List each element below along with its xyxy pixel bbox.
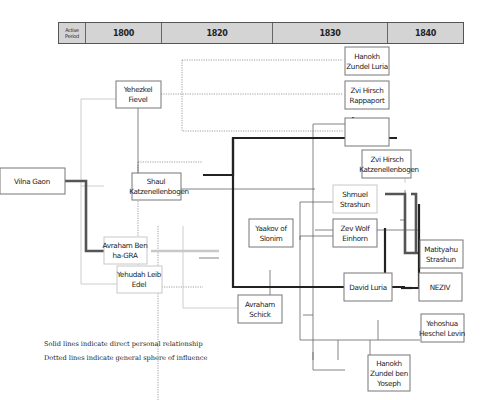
node-zvi-hirsch-rappaport[interactable]: Zvi Hirsch Rappaport xyxy=(345,81,389,109)
svg-text:Edel: Edel xyxy=(132,280,147,289)
node-hanokh-zundel-luria[interactable]: Hanokh Zundel Luria xyxy=(345,47,389,75)
node-neziv[interactable]: NEZIV xyxy=(419,273,462,301)
svg-text:Yehudah Leib: Yehudah Leib xyxy=(116,270,162,279)
svg-text:Yoseph: Yoseph xyxy=(376,379,400,388)
svg-text:Heschel Levin: Heschel Levin xyxy=(419,329,465,338)
node-shmuel-strashun[interactable]: Shmuel Strashun xyxy=(333,185,377,213)
svg-text:Zundel ben: Zundel ben xyxy=(370,369,408,378)
svg-text:Hanokh: Hanokh xyxy=(354,52,380,61)
svg-text:Katzenellenbogen: Katzenellenbogen xyxy=(129,187,189,196)
svg-text:Avraham: Avraham xyxy=(245,300,275,309)
node-shaul-katzenellenbogen[interactable]: Shaul Katzenellenbogen xyxy=(129,173,189,200)
svg-text:Shmuel: Shmuel xyxy=(342,190,368,199)
node-matityahu-strashun[interactable]: Matityahu Strashun xyxy=(420,240,463,268)
node-yehezkel-fievel[interactable]: Yehezkel Fievel xyxy=(116,81,161,108)
svg-text:Slonim: Slonim xyxy=(260,234,283,243)
node-yitzhak-elyahu-landau[interactable] xyxy=(345,118,389,146)
svg-text:Rappaport: Rappaport xyxy=(350,96,385,105)
svg-text:Matityahu: Matityahu xyxy=(424,245,457,254)
svg-text:Yehezkel: Yehezkel xyxy=(123,85,153,94)
node-hanokh-zundel-ben-yoseph[interactable]: Hanokh Zundel ben Yoseph xyxy=(368,355,410,391)
svg-text:Zvi Hirsch: Zvi Hirsch xyxy=(370,155,403,164)
node-avraham-ben-hagra[interactable]: Avraham Ben ha-GRA xyxy=(103,237,148,264)
svg-text:David Luria: David Luria xyxy=(349,283,387,292)
legend-solid: Solid lines indicate direct personal rel… xyxy=(44,340,207,354)
node-zvi-hirsch-katzenellenbogen[interactable]: Zvi Hirsch Katzenellenbogen xyxy=(359,150,419,178)
svg-text:NEZIV: NEZIV xyxy=(430,283,451,292)
svg-text:Strashun: Strashun xyxy=(426,255,456,264)
svg-text:Katzenellenbogen: Katzenellenbogen xyxy=(359,165,419,174)
svg-text:Zundel Luria: Zundel Luria xyxy=(346,62,388,71)
node-yaakov-of-slonim[interactable]: Yaakov of Slonim xyxy=(249,219,293,247)
node-avraham-schick[interactable]: Avraham Schick xyxy=(238,295,282,323)
node-vilna-gaon[interactable]: Vilna Gaon xyxy=(0,168,65,194)
svg-text:Hanokh: Hanokh xyxy=(376,359,402,368)
svg-text:Vilna Gaon: Vilna Gaon xyxy=(14,177,50,186)
legend-dotted: Dotted lines indicate general sphere of … xyxy=(44,354,207,368)
svg-text:Zvi Hirsch: Zvi Hirsch xyxy=(350,86,383,95)
node-zev-wolf-einhorn[interactable]: Zev Wolf Einhorn xyxy=(333,219,377,247)
svg-text:Yaakov of: Yaakov of xyxy=(254,224,287,233)
svg-text:Strashun: Strashun xyxy=(340,200,370,209)
legend: Solid lines indicate direct personal rel… xyxy=(44,340,207,368)
node-david-luria[interactable]: David Luria xyxy=(344,273,392,301)
svg-text:Zev Wolf: Zev Wolf xyxy=(340,224,370,233)
svg-text:Fievel: Fievel xyxy=(129,95,148,104)
svg-text:ha-GRA: ha-GRA xyxy=(112,251,138,260)
node-yehudah-leib-edel[interactable]: Yehudah Leib Edel xyxy=(116,266,162,293)
svg-text:Shaul: Shaul xyxy=(147,177,166,186)
svg-text:Avraham Ben: Avraham Ben xyxy=(103,241,148,250)
svg-text:Yehoshua: Yehoshua xyxy=(425,319,458,328)
svg-text:Schick: Schick xyxy=(249,310,272,319)
node-yehoshua-heschel-levin[interactable]: Yehoshua Heschel Levin xyxy=(419,314,465,342)
svg-text:Einhorn: Einhorn xyxy=(342,234,367,243)
